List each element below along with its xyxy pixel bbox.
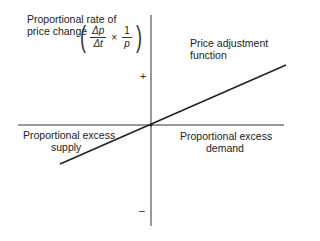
formula-times: × xyxy=(111,32,117,43)
right-paren: ) xyxy=(136,22,142,52)
rate-formula: ( Δp Δt × 1 p ) xyxy=(78,21,144,53)
fraction-1-p: 1 p xyxy=(122,25,132,50)
excess-demand-label-line2: demand xyxy=(206,142,244,154)
plus-sign: + xyxy=(140,70,146,82)
minus-sign: – xyxy=(139,204,145,216)
function-label-line1: Price adjustment xyxy=(190,37,268,49)
excess-supply-label-line2: supply xyxy=(51,141,81,153)
origin-dot xyxy=(150,124,153,127)
excess-demand-label-line1: Proportional excess xyxy=(180,130,272,142)
function-label-line2: function xyxy=(190,49,227,61)
excess-supply-label-line1: Proportional excess xyxy=(23,129,115,141)
formula-numerator-1: Δp xyxy=(90,25,106,38)
formula-denominator-1: Δt xyxy=(91,38,105,50)
fraction-dp-dt: Δp Δt xyxy=(90,25,106,50)
left-paren: ( xyxy=(80,22,86,52)
formula-numerator-2: 1 xyxy=(122,25,132,38)
formula-denominator-2: p xyxy=(122,38,132,50)
price-adjustment-line xyxy=(60,65,286,164)
